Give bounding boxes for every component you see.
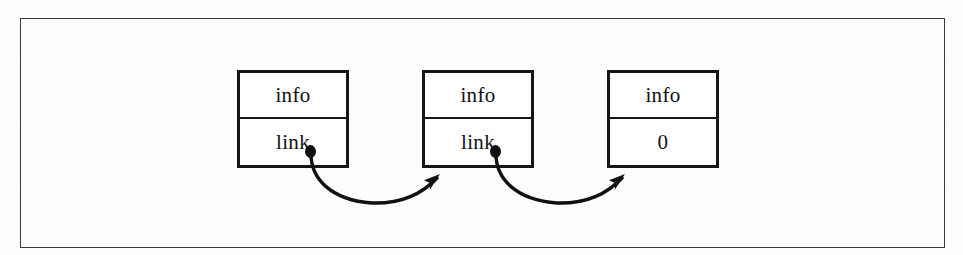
node-1-info-label: info <box>275 85 310 106</box>
node-3-info-cell: info <box>610 73 716 119</box>
node-3-null-cell: 0 <box>610 119 716 178</box>
node-2-info-label: info <box>460 85 495 106</box>
node-3-info-label: info <box>645 85 680 106</box>
list-node-1: info link <box>237 70 349 168</box>
node-1-pointer-dot <box>305 145 316 158</box>
list-node-3: info 0 <box>607 70 719 168</box>
node-2-link-cell: link <box>425 119 531 178</box>
node-1-link-cell: link <box>240 119 346 178</box>
linked-list-diagram: info link info link info 0 <box>0 0 963 255</box>
figure-canvas: info link info link info 0 <box>0 0 963 255</box>
node-2-pointer-dot <box>490 145 501 158</box>
list-node-2: info link <box>422 70 534 168</box>
node-3-null-label: 0 <box>658 132 669 153</box>
node-2-info-cell: info <box>425 73 531 119</box>
node-1-info-cell: info <box>240 73 346 119</box>
